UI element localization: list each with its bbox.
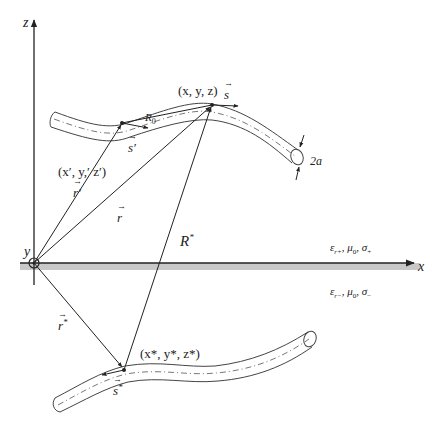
s-vector bbox=[212, 105, 238, 106]
z-axis-label: z bbox=[23, 16, 28, 30]
upper-wire bbox=[50, 103, 305, 166]
r-star-vector-label: r* bbox=[58, 318, 68, 332]
upper-mu-sub: 0 bbox=[353, 248, 357, 256]
field-point-label: (x, y, z) bbox=[178, 84, 218, 97]
r-star-distance-symbol: R bbox=[180, 233, 189, 249]
r-prime-symbol: r′ bbox=[73, 186, 81, 199]
upper-sigma-sub: + bbox=[367, 248, 371, 256]
lower-mu-sub: 0 bbox=[353, 292, 357, 300]
s-star-symbol: s bbox=[113, 384, 118, 397]
diagram-canvas bbox=[0, 0, 434, 424]
image-wire bbox=[53, 329, 318, 412]
source-point-label: (x′, y,′ z′) bbox=[58, 165, 106, 178]
field-point bbox=[210, 103, 214, 107]
lower-medium-label: εr−, μ0, σ− bbox=[330, 286, 371, 300]
upper-medium-label: εr+, μ0, σ+ bbox=[330, 242, 371, 256]
r-star-distance-sup: * bbox=[189, 232, 194, 242]
lower-eps-sub: r− bbox=[334, 292, 341, 300]
r-star-distance-vector bbox=[124, 107, 211, 370]
s-prime-vector-label: s′ bbox=[128, 141, 136, 154]
s-prime-symbol: s′ bbox=[128, 141, 136, 154]
s-symbol: s bbox=[224, 88, 229, 101]
r-vector-label: r bbox=[117, 211, 122, 224]
r0-label: R0 bbox=[145, 112, 156, 126]
r-star-symbol: r bbox=[58, 319, 63, 332]
radius-label: 2a bbox=[310, 155, 322, 167]
y-axis-label: y bbox=[24, 245, 30, 259]
ground-plane bbox=[20, 263, 420, 270]
r0-subscript: 0 bbox=[152, 117, 156, 126]
r-symbol: r bbox=[117, 211, 122, 224]
s-vector-label: s bbox=[224, 88, 229, 101]
lower-sigma-sub: − bbox=[367, 292, 371, 300]
x-axis-label: x bbox=[418, 260, 424, 274]
radius-arrow-top bbox=[300, 135, 304, 147]
upper-eps-sub: r+ bbox=[334, 248, 341, 256]
r0-symbol: R bbox=[145, 111, 152, 123]
r-star-distance-label: R* bbox=[180, 233, 194, 249]
r-star-vector bbox=[34, 263, 122, 367]
r-prime-vector-label: r′ bbox=[73, 186, 81, 199]
image-point-label: (x*, y*, z*) bbox=[140, 347, 200, 360]
s-star-vector-label: s* bbox=[113, 383, 123, 397]
radius-arrow-bottom bbox=[296, 167, 299, 180]
image-point bbox=[122, 368, 126, 372]
source-point bbox=[120, 121, 124, 125]
